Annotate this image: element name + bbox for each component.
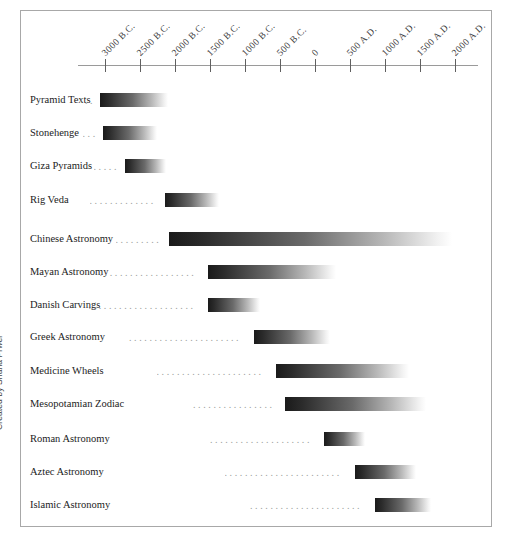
leader-dots: ...................... (250, 494, 371, 516)
leader-dots: ................ (193, 393, 281, 415)
axis-line (78, 65, 478, 66)
timeline-chart-page: Created by Shana Prwer 3000 B.C.2500 B.C… (0, 0, 506, 542)
timeline-row[interactable]: Mayan Astronomy................... (0, 261, 506, 283)
timeline-row[interactable]: Danish Carvings..................... (0, 294, 506, 316)
timeline-row-label: Stonehenge (30, 122, 79, 144)
timeline-bar[interactable] (100, 93, 168, 107)
timeline-row[interactable]: Rig Veda............. (0, 189, 506, 211)
timeline-row[interactable]: Greek Astronomy...................... (0, 326, 506, 348)
leader-dots: ..................... (89, 294, 205, 316)
axis-tick (420, 59, 421, 72)
axis-tick (175, 59, 176, 72)
leader-dots: ....................... (225, 461, 352, 483)
timeline-bar[interactable] (165, 193, 219, 207)
timeline-row[interactable]: Aztec Astronomy....................... (0, 461, 506, 483)
timeline-row-label: Pyramid Texts (30, 89, 91, 111)
axis-tick (245, 59, 246, 72)
timeline-row[interactable]: Roman Astronomy.................... (0, 428, 506, 450)
axis-tick (210, 59, 211, 72)
timeline-row[interactable]: Giza Pyramids..... (0, 155, 506, 177)
axis-tick (105, 59, 106, 72)
timeline-row-label: Islamic Astronomy (30, 494, 110, 516)
timeline-bar[interactable] (125, 159, 166, 173)
timeline-row-label: Roman Astronomy (30, 428, 110, 450)
timeline-row[interactable]: Mesopotamian Zodiac................ (0, 393, 506, 415)
timeline-bar[interactable] (208, 265, 336, 279)
timeline-row-label: Giza Pyramids (30, 155, 92, 177)
timeline-row[interactable]: Medicine Wheels..................... (0, 360, 506, 382)
axis-tick (385, 59, 386, 72)
timeline-row[interactable]: Islamic Astronomy...................... (0, 494, 506, 516)
leader-dots: ............. (90, 189, 162, 211)
timeline-bar[interactable] (285, 397, 426, 411)
timeline-row[interactable]: Pyramid Texts.. (0, 89, 506, 111)
timeline-row-label: Aztec Astronomy (30, 461, 104, 483)
leader-dots: ... (83, 122, 100, 144)
timeline-row-label: Rig Veda (30, 189, 69, 211)
timeline-row[interactable]: Stonehenge... (0, 122, 506, 144)
timeline-bar[interactable] (324, 432, 365, 446)
timeline-row-label: Mayan Astronomy (30, 261, 108, 283)
axis-tick (455, 59, 456, 72)
timeline-row-label: Mesopotamian Zodiac (30, 393, 124, 415)
leader-dots: ..................... (157, 360, 273, 382)
axis-tick (140, 59, 141, 72)
leader-dots: ...................... (129, 326, 250, 348)
axis-tick (280, 59, 281, 72)
timeline-bar[interactable] (169, 232, 452, 246)
timeline-row-label: Greek Astronomy (30, 326, 105, 348)
axis-tick (315, 59, 316, 72)
timeline-bar[interactable] (208, 298, 260, 312)
leader-dots: .. (85, 89, 96, 111)
timeline-bar[interactable] (355, 465, 416, 479)
leader-dots: .................... (210, 428, 320, 450)
timeline-row[interactable]: Chinese Astronomy......... (0, 228, 506, 250)
timeline-row-label: Chinese Astronomy (30, 228, 113, 250)
timeline-bar[interactable] (254, 330, 330, 344)
timeline-bar[interactable] (276, 364, 409, 378)
timeline-bar[interactable] (103, 126, 157, 140)
leader-dots: ......... (116, 228, 166, 250)
axis-tick (350, 59, 351, 72)
leader-dots: ..... (94, 155, 122, 177)
timeline-bar[interactable] (375, 498, 431, 512)
leader-dots: ................... (100, 261, 205, 283)
timeline-row-label: Medicine Wheels (30, 360, 104, 382)
